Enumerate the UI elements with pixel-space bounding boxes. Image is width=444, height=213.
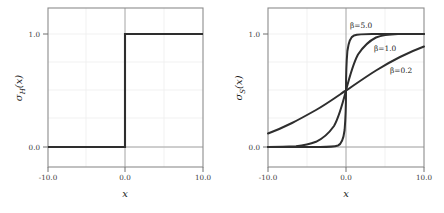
ytick-label-right-1: 1.0 (249, 30, 261, 39)
xaxis-title-left: x (122, 188, 128, 199)
xtick-label-right-1: 0.0 (340, 173, 352, 182)
curve-annotation-beta-02: β=0.2 (390, 66, 412, 75)
xtick-label-left-0: -10.0 (39, 173, 58, 182)
xaxis-title-right: x (343, 188, 349, 199)
xtick-label-right-0: -10.0 (259, 173, 278, 182)
yaxis-arg-right: (x) (233, 75, 244, 89)
ytick-label-left-0: 0.0 (29, 143, 41, 152)
curve-annotation-beta-1: β=1.0 (374, 44, 397, 53)
xtick-label-left-1: 0.0 (119, 173, 131, 182)
xtick-label-left-2: 10.0 (195, 173, 211, 182)
ytick-label-right-0: 0.0 (249, 143, 261, 152)
ytick-label-left-1: 1.0 (29, 30, 41, 39)
curve-annotation-beta-5: β=5.0 (350, 21, 373, 30)
two-panel-sigmoid-figure: -10.0 0.0 10.0 0.0 1.0 x σH(x) (0, 0, 444, 213)
xtick-label-right-2: 10.0 (416, 173, 432, 182)
figure-container: -10.0 0.0 10.0 0.0 1.0 x σH(x) (0, 0, 444, 213)
yaxis-arg-left: (x) (13, 75, 24, 89)
figure-background (0, 0, 444, 213)
